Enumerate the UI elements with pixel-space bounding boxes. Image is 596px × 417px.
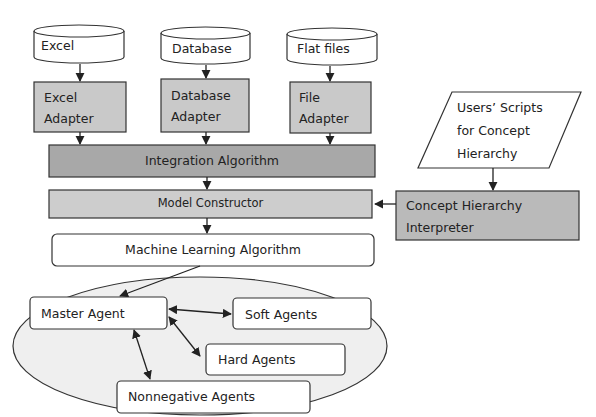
user-scripts-line3: Hierarchy: [457, 144, 517, 163]
database-adapter-line2: Adapter: [171, 107, 221, 126]
soft-agents-label: Soft Agents: [245, 305, 317, 324]
user-scripts-line2: for Concept: [457, 121, 530, 140]
master-agent-label: Master Agent: [41, 304, 125, 323]
ml-algorithm-label: Machine Learning Algorithm: [52, 240, 374, 259]
database-adapter-line1: Database: [171, 86, 231, 105]
interpreter-line1: Concept Hierarchy: [406, 196, 522, 215]
file-adapter-line2: Adapter: [299, 109, 349, 128]
flat-files-label: Flat files: [297, 39, 350, 58]
user-scripts-line1: Users’ Scripts: [457, 98, 543, 117]
database-label: Database: [172, 39, 232, 58]
excel-adapter-line2: Adapter: [44, 109, 94, 128]
integration-algorithm-label: Integration Algorithm: [49, 151, 375, 170]
file-adapter-line1: File: [299, 88, 320, 107]
nonnegative-agents-label: Nonnegative Agents: [128, 387, 255, 406]
hard-agents-label: Hard Agents: [218, 350, 295, 369]
interpreter-line2: Interpreter: [406, 218, 474, 237]
excel-label: Excel: [41, 36, 74, 55]
excel-adapter-line1: Excel: [44, 88, 77, 107]
model-constructor-label: Model Constructor: [49, 194, 372, 213]
